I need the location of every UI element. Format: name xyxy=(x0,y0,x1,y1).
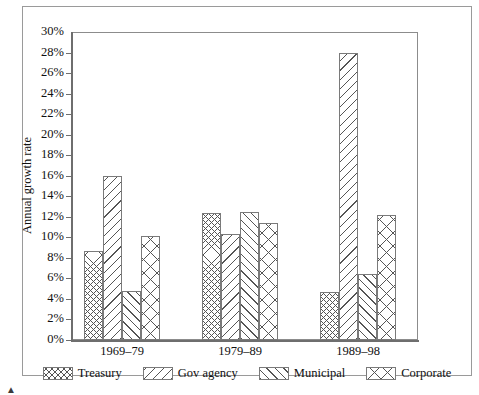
x-category-label: 1969–79 xyxy=(72,344,172,359)
chart-legend: TreasuryGov agencyMunicipalCorporate xyxy=(24,362,470,384)
legend-label: Corporate xyxy=(401,366,451,381)
x-category-label: 1989–98 xyxy=(308,344,408,359)
bar-gov-agency-1 xyxy=(221,234,240,340)
legend-label: Treasury xyxy=(78,366,122,381)
bar-corporate-0 xyxy=(141,236,160,340)
bar-treasury-1 xyxy=(202,213,221,340)
bar-corporate-2 xyxy=(377,215,396,340)
legend-item-gov-agency[interactable]: Gov agency xyxy=(143,366,238,381)
bar-municipal-0 xyxy=(122,291,141,340)
bar-treasury-0 xyxy=(84,251,103,340)
legend-item-municipal[interactable]: Municipal xyxy=(259,366,345,381)
legend-swatch-icon xyxy=(143,367,173,380)
bar-municipal-2 xyxy=(358,274,377,340)
legend-label: Gov agency xyxy=(178,366,238,381)
bars-layer xyxy=(0,0,479,395)
x-category-label: 1979–89 xyxy=(190,344,290,359)
figure: 0%2%4%6%8%10%12%14%16%18%20%22%24%26%28%… xyxy=(0,0,479,395)
legend-swatch-icon xyxy=(259,367,289,380)
bar-gov-agency-2 xyxy=(339,53,358,340)
caption-marker-icon: ▲ xyxy=(6,385,16,394)
bar-municipal-1 xyxy=(240,212,259,340)
bar-gov-agency-0 xyxy=(103,176,122,340)
bar-corporate-1 xyxy=(259,223,278,340)
legend-label: Municipal xyxy=(294,366,345,381)
legend-item-corporate[interactable]: Corporate xyxy=(366,366,451,381)
legend-swatch-icon xyxy=(366,367,396,380)
legend-item-treasury[interactable]: Treasury xyxy=(43,366,122,381)
legend-swatch-icon xyxy=(43,367,73,380)
bar-treasury-2 xyxy=(320,292,339,340)
